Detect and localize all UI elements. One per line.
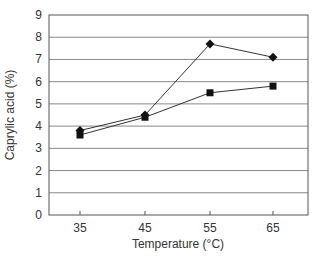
diamond-marker — [269, 53, 278, 62]
plot-area-border — [49, 15, 308, 215]
series-line — [80, 44, 273, 131]
x-tick-label: 55 — [203, 221, 217, 235]
y-tick-label: 9 — [35, 8, 42, 22]
gridlines — [49, 37, 308, 193]
x-axis-title: Temperature (°C) — [132, 237, 224, 251]
series-line — [80, 86, 273, 135]
square-marker — [207, 89, 214, 96]
y-tick-label: 8 — [35, 30, 42, 44]
x-tick-label: 45 — [138, 221, 152, 235]
y-tick-label: 4 — [35, 119, 42, 133]
x-tick-label: 35 — [73, 221, 87, 235]
square-marker — [142, 114, 149, 121]
line-chart: 0123456789 35455565 Temperature (°C) Cap… — [0, 0, 322, 264]
data-series — [76, 39, 278, 138]
square-marker — [270, 83, 277, 90]
y-tick-label: 1 — [35, 186, 42, 200]
y-tick-label: 7 — [35, 52, 42, 66]
y-tick-label: 0 — [35, 208, 42, 222]
y-tick-label: 2 — [35, 164, 42, 178]
y-tick-label: 5 — [35, 97, 42, 111]
square-marker — [77, 132, 84, 139]
y-tick-label: 6 — [35, 75, 42, 89]
y-tick-label: 3 — [35, 141, 42, 155]
y-axis-ticks: 0123456789 — [35, 8, 42, 222]
x-tick-label: 65 — [266, 221, 280, 235]
y-axis-title: Caprylic acid (%) — [3, 70, 17, 161]
